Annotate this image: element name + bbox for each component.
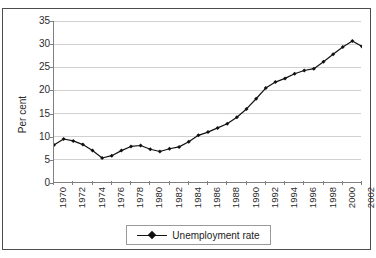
x-axis-tick-mark	[246, 181, 247, 185]
cutoff-title-remnant	[0, 0, 376, 7]
x-axis-tick-mark	[169, 181, 170, 185]
x-axis-tick-mark	[342, 181, 343, 185]
data-point-marker	[148, 147, 152, 151]
legend-marker-icon	[137, 231, 167, 240]
x-axis-tick-mark	[111, 181, 112, 185]
x-axis-tick-mark	[284, 181, 285, 185]
x-axis-tick-mark	[130, 181, 131, 185]
x-axis-tick-label: 1996	[307, 187, 318, 208]
series-unemployment-rate	[54, 21, 362, 183]
y-axis-tick-label: 35	[6, 16, 50, 26]
x-axis-tick-mark	[361, 181, 362, 185]
y-axis-tick-label: 5	[6, 155, 50, 165]
x-axis-tick-mark	[72, 181, 73, 185]
x-axis-tick-label: 1984	[192, 187, 203, 208]
data-point-marker	[168, 147, 172, 151]
x-axis-labels: 1970197219741976197819801982198419861988…	[53, 185, 363, 225]
x-axis-tick-label: 1976	[115, 187, 126, 208]
y-axis-tick-label: 0	[6, 178, 50, 188]
y-axis-labels: 05101520253035	[3, 21, 50, 183]
x-axis-tick-label: 1990	[250, 187, 261, 208]
x-axis-tick-label: 1982	[173, 187, 184, 208]
data-point-marker	[216, 126, 220, 130]
x-axis-tick-label: 1970	[57, 187, 68, 208]
y-axis-tick-label: 25	[6, 62, 50, 72]
data-point-marker	[283, 76, 287, 80]
x-axis-tick-label: 1978	[134, 187, 145, 208]
x-axis-tick-mark	[207, 181, 208, 185]
x-axis-tick-label: 1974	[96, 187, 107, 208]
y-axis-tick-label: 30	[6, 39, 50, 49]
data-point-marker	[71, 139, 75, 143]
x-axis-tick-mark	[53, 181, 54, 185]
chart-legend: Unemployment rate	[126, 225, 271, 245]
x-axis-tick-label: 1986	[211, 187, 222, 208]
x-axis-tick-label: 1972	[76, 187, 87, 208]
data-line	[54, 41, 362, 158]
legend-label: Unemployment rate	[172, 230, 259, 241]
data-point-marker	[206, 130, 210, 134]
x-axis-tick-label: 1992	[269, 187, 280, 208]
data-point-marker	[139, 144, 143, 148]
x-axis-tick-mark	[92, 181, 93, 185]
x-axis-tick-mark	[323, 181, 324, 185]
x-axis-tick-label: 1988	[230, 187, 241, 208]
x-axis-tick-label: 1994	[288, 187, 299, 208]
x-axis-tick-mark	[149, 181, 150, 185]
data-point-marker	[302, 69, 306, 73]
x-axis-tick-mark	[188, 181, 189, 185]
data-point-marker	[129, 144, 133, 148]
y-axis-tick-label: 20	[6, 85, 50, 95]
data-point-marker	[158, 150, 162, 154]
x-axis-tick-mark	[226, 181, 227, 185]
x-axis-tick-label: 1980	[153, 187, 164, 208]
x-axis-tick-label: 2000	[346, 187, 357, 208]
data-markers	[54, 39, 362, 160]
y-axis-tick-label: 15	[6, 109, 50, 119]
x-axis-tick-label: 2002	[365, 187, 376, 208]
data-point-marker	[293, 72, 297, 76]
y-axis-tick-label: 10	[6, 132, 50, 142]
chart-frame: Per cent 05101520253035 1970197219741976…	[2, 8, 371, 250]
x-axis-tick-mark	[303, 181, 304, 185]
x-axis-tick-mark	[265, 181, 266, 185]
chart-screenshot: Per cent 05101520253035 1970197219741976…	[0, 0, 376, 258]
x-axis-tick-label: 1998	[327, 187, 338, 208]
plot-area	[53, 21, 361, 183]
